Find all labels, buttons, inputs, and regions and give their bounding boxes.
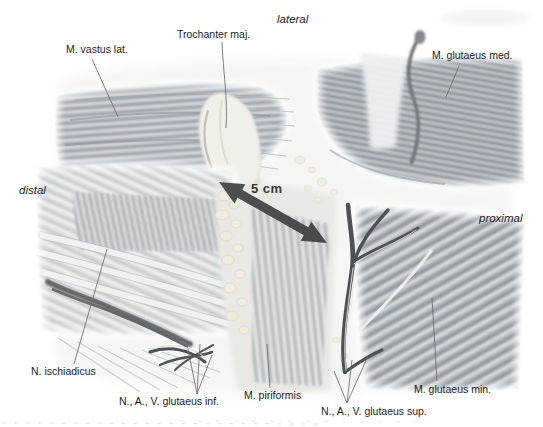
label-vastus-lateralis: M. vastus lat.	[66, 44, 128, 55]
label-inferior-gluteal-nv: N., A., V. glutaeus inf.	[119, 396, 219, 407]
label-superior-gluteal-nv: N., A., V. glutaeus sup.	[321, 406, 427, 417]
anatomical-illustration	[0, 0, 543, 427]
label-gluteus-minimus: M. glutaeus min.	[414, 384, 491, 395]
cropped-caption-fragment	[2, 421, 430, 424]
orientation-label-distal: distal	[19, 184, 46, 196]
orientation-label-lateral: lateral	[277, 13, 308, 25]
figure-page: lateral distal proximal M. vastus lat. T…	[0, 0, 543, 427]
label-trochanter-major: Trochanter maj.	[177, 29, 250, 40]
corner-wisp	[440, 9, 530, 27]
gluteus-minimus-muscle	[355, 206, 524, 391]
label-gluteus-medius: M. glutaeus med.	[432, 50, 513, 61]
label-piriformis: M. piriformis	[244, 390, 301, 401]
measurement-text: 5 cm	[251, 182, 283, 196]
orientation-label-proximal: proximal	[479, 212, 522, 224]
label-sciatic-nerve: N. ischiadicus	[31, 366, 96, 377]
